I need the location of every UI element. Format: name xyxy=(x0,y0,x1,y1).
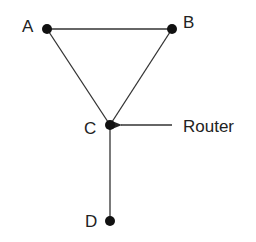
node-b-label: B xyxy=(183,13,194,32)
node-c-label: C xyxy=(84,119,96,138)
network-diagram: A B C D Router xyxy=(0,0,256,242)
edge-a-c xyxy=(47,29,110,125)
node-b xyxy=(167,24,177,34)
node-d-label: D xyxy=(85,212,97,231)
node-d xyxy=(105,216,115,226)
edge-b-c xyxy=(110,29,172,125)
node-c xyxy=(105,120,115,130)
router-label: Router xyxy=(183,117,234,136)
node-a xyxy=(42,24,52,34)
node-a-label: A xyxy=(22,17,34,36)
